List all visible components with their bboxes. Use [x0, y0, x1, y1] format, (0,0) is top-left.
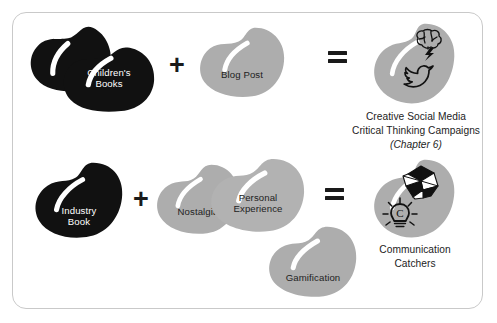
- cootie-catcher-icon: [401, 164, 441, 200]
- bean-gamification: Gamification: [268, 225, 358, 298]
- caption-line-1: Creative Social Media: [366, 111, 466, 122]
- caption-line-2: Critical Thinking Campaigns: [352, 125, 480, 136]
- brain-icon: [409, 28, 447, 62]
- svg-text:C: C: [396, 207, 403, 219]
- plus-operator-row-1: +: [166, 52, 188, 79]
- caption-line-3: (Chapter 6): [352, 138, 480, 152]
- lightbulb-idea-icon: C: [381, 196, 419, 234]
- twitter-bird-icon: [404, 62, 436, 90]
- caption-line-2: Catchers: [394, 258, 435, 269]
- caption-communication-catchers: Communication Catchers: [355, 243, 475, 271]
- bean-childrens-books: Children's Books: [62, 45, 156, 113]
- bean-industry-book: Industry Book: [34, 161, 124, 239]
- caption-creative-social-media: Creative Social Media Critical Thinking …: [352, 110, 480, 151]
- diagram-canvas: Children's Books + Blog Post: [0, 0, 497, 323]
- bean-personal-experience: Personal Experience: [210, 157, 306, 233]
- equals-operator-row-1: [328, 51, 347, 63]
- bean-blog-post: Blog Post: [199, 26, 285, 98]
- equals-operator-row-2: [325, 188, 344, 200]
- plus-operator-row-2: +: [130, 186, 152, 213]
- caption-line-1: Communication: [379, 244, 450, 255]
